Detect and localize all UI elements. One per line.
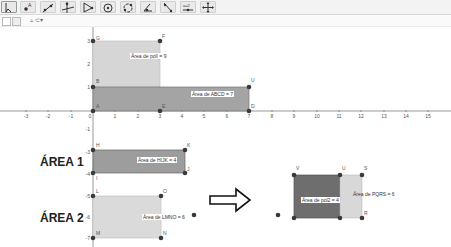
area-label-lmno: Área de LMNO = 6 xyxy=(142,214,186,220)
area-label-abcd: Área de ABCD = 7 xyxy=(191,91,234,97)
svg-text:O: O xyxy=(163,188,167,194)
axes-toggle[interactable] xyxy=(12,17,21,26)
perpendicular-icon xyxy=(62,2,74,13)
svg-text:-4: -4 xyxy=(86,171,91,177)
svg-text:H: H xyxy=(96,142,100,148)
svg-text:2: 2 xyxy=(87,61,90,67)
svg-text:S: S xyxy=(364,165,368,171)
polygon-icon xyxy=(82,2,94,13)
svg-text:-3: -3 xyxy=(86,149,91,155)
svg-text:0: 0 xyxy=(89,113,92,119)
svg-text:7: 7 xyxy=(248,113,251,119)
svg-text:12: 12 xyxy=(358,113,364,119)
svg-text:F: F xyxy=(162,33,165,39)
svg-text:A: A xyxy=(28,2,32,8)
polygon-poll xyxy=(93,41,160,87)
svg-text:K: K xyxy=(187,142,191,148)
svg-text:6: 6 xyxy=(226,113,229,119)
svg-text:J: J xyxy=(187,166,190,172)
svg-text:8: 8 xyxy=(271,113,274,119)
heading-area-2: ÁREA 2 xyxy=(40,211,84,225)
point-capture-dropdown[interactable]: ▵ ⊂▾ xyxy=(30,16,43,23)
angle-tool[interactable] xyxy=(140,1,156,13)
svg-text:L: L xyxy=(96,188,99,194)
svg-text:14: 14 xyxy=(403,113,409,119)
circle-tool[interactable] xyxy=(100,1,116,13)
move-view-icon xyxy=(202,2,214,13)
svg-text:2: 2 xyxy=(137,113,140,119)
svg-text:13: 13 xyxy=(381,113,387,119)
svg-text:U: U xyxy=(251,77,255,83)
circle-three-points-tool[interactable] xyxy=(120,1,136,13)
svg-text:R: R xyxy=(364,210,368,216)
svg-text:-1: -1 xyxy=(69,113,74,119)
svg-text:I: I xyxy=(96,175,97,181)
arc-icon xyxy=(122,2,134,13)
heading-area-1: ÁREA 1 xyxy=(40,155,84,169)
svg-text:10: 10 xyxy=(314,113,320,119)
reflect-tool[interactable] xyxy=(160,1,176,13)
move-tool[interactable] xyxy=(1,1,17,13)
svg-text:1: 1 xyxy=(114,113,117,119)
slider-icon: a=2 xyxy=(182,2,194,13)
svg-text:15: 15 xyxy=(425,113,431,119)
area-label-pqrs: Área de PQRS = 6 xyxy=(352,191,396,197)
svg-text:1: 1 xyxy=(87,84,90,90)
svg-text:-1: -1 xyxy=(86,126,91,132)
area-label-pol2: Área de pol2 = 4 xyxy=(301,197,340,203)
area-label-poll: Área de polí = 9 xyxy=(130,53,167,59)
svg-text:-2: -2 xyxy=(46,113,51,119)
svg-text:M: M xyxy=(96,230,100,236)
svg-text:9: 9 xyxy=(293,113,296,119)
arrow-right-icon xyxy=(210,189,250,211)
svg-text:V: V xyxy=(296,165,300,171)
line-icon xyxy=(42,2,54,13)
move-view-tool[interactable] xyxy=(200,1,216,13)
reflect-icon xyxy=(162,2,174,13)
point-icon: A xyxy=(22,2,34,13)
area-label-hijk: Área de HIJK = 4 xyxy=(137,157,177,163)
svg-text:5: 5 xyxy=(203,113,206,119)
svg-text:11: 11 xyxy=(336,113,341,119)
y-axis-ticks: 321 -1-3-4 -5-6-7 xyxy=(86,38,91,241)
point-tool[interactable]: A xyxy=(20,1,36,13)
svg-text:D: D xyxy=(251,103,255,109)
slider-tool[interactable]: a=2 xyxy=(180,1,196,13)
angle-icon xyxy=(142,2,154,13)
svg-text:4: 4 xyxy=(181,113,184,119)
polygon-tool[interactable] xyxy=(80,1,96,13)
style-bar: ▵ ⊂▾ xyxy=(0,15,451,27)
svg-text:3: 3 xyxy=(87,38,90,44)
line-tool[interactable] xyxy=(40,1,56,13)
grid-toggle[interactable] xyxy=(2,17,11,26)
perpendicular-tool[interactable] xyxy=(60,1,76,13)
svg-text:a=2: a=2 xyxy=(183,3,191,8)
svg-text:-7: -7 xyxy=(86,235,91,241)
svg-text:-6: -6 xyxy=(86,214,91,220)
svg-text:3: 3 xyxy=(159,113,162,119)
svg-text:-5: -5 xyxy=(86,193,91,199)
arrow-icon xyxy=(3,2,15,13)
svg-text:-3: -3 xyxy=(24,113,29,119)
svg-text:N: N xyxy=(163,230,167,236)
circle-icon xyxy=(102,2,114,13)
svg-text:U: U xyxy=(342,165,346,171)
toolbar: A a=2 xyxy=(0,0,451,15)
svg-text:G: G xyxy=(96,35,100,41)
